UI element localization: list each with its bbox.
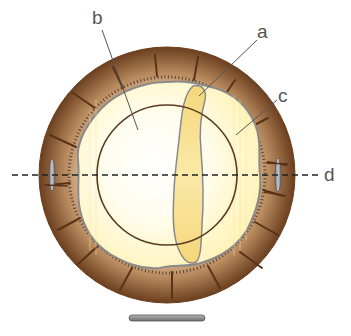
label-c: c — [278, 85, 288, 106]
diagram: b a c d — [0, 0, 351, 336]
label-b: b — [92, 7, 103, 28]
bottom-bar — [129, 315, 205, 321]
label-a: a — [257, 21, 268, 42]
label-d: d — [324, 164, 335, 185]
